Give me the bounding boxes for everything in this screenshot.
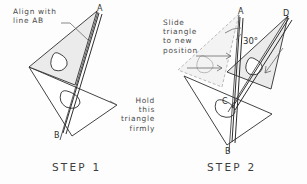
step2-point-label-a: A	[238, 7, 243, 16]
step2-point-label-c: C	[222, 97, 228, 106]
drawing-svg	[0, 0, 307, 184]
annotation-align-with-line-ab: Align with line AB	[13, 7, 57, 25]
step1-caption: STEP 1	[52, 161, 101, 173]
annotation-slide-triangle-to-new-position: Slide triangle to new position	[163, 18, 198, 55]
step2-caption: STEP 2	[207, 161, 256, 173]
step1-point-label-a: A	[97, 4, 102, 13]
step2-angle-label-30-degrees: 30°	[243, 36, 258, 46]
annotation-hold-this-triangle-firmly: Hold this triangle firmly	[113, 96, 155, 133]
figure-canvas: Align with line AB Hold this triangle fi…	[0, 0, 307, 184]
step2-point-label-d: D	[283, 9, 289, 18]
step2-lower-triangle	[184, 76, 272, 145]
step2-point-label-b: B	[225, 147, 231, 156]
step1-point-label-b: B	[54, 131, 60, 140]
